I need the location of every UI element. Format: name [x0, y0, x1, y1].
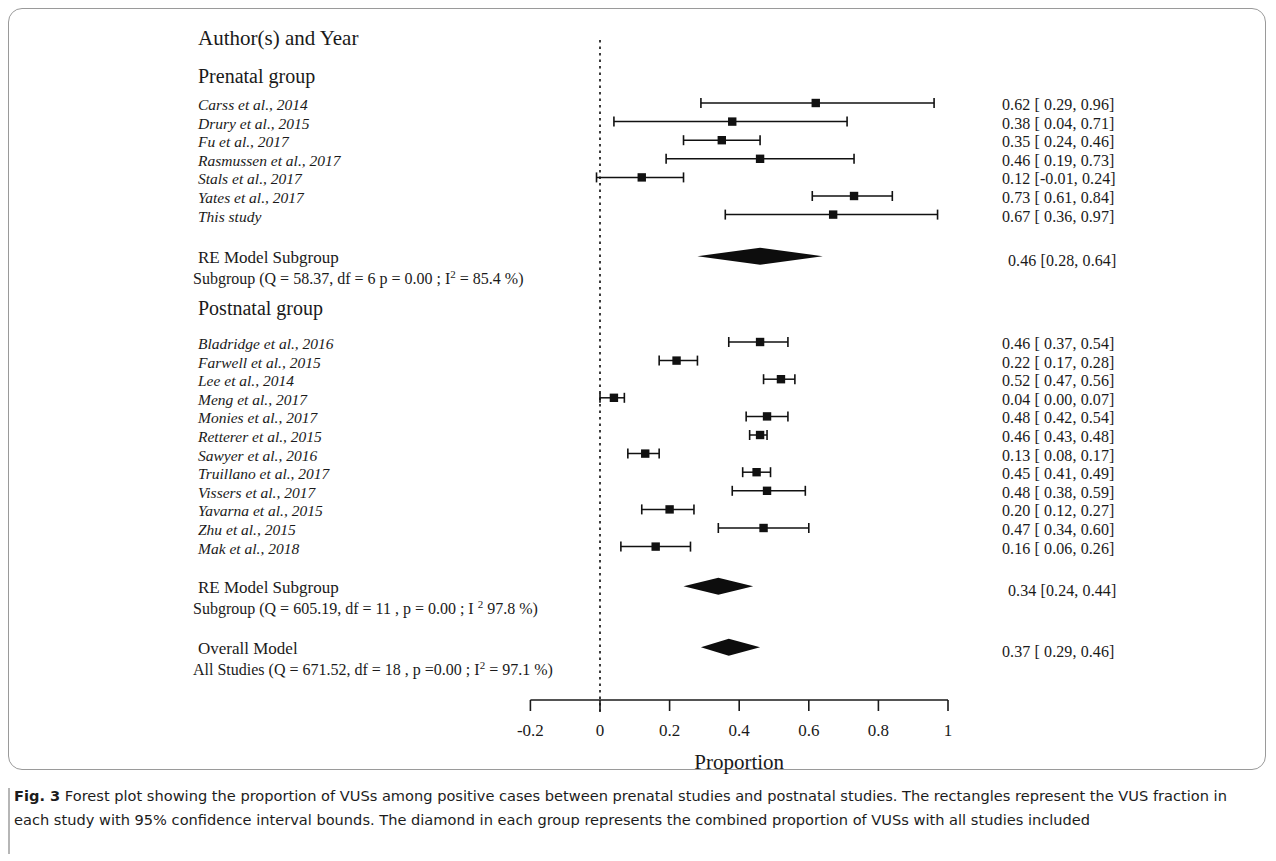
- study-value: 0.73 [ 0.61, 0.84]: [1002, 190, 1114, 206]
- study-value: 0.35 [ 0.24, 0.46]: [1002, 134, 1114, 150]
- effect-marker: [850, 192, 858, 200]
- study-label: Drury et al., 2015: [198, 116, 310, 132]
- forest-row-mak-et-al-2018: [621, 542, 691, 552]
- forest-row-meng-et-al-2017: [600, 393, 624, 403]
- study-value: 0.12 [-0.01, 0.24]: [1002, 171, 1116, 187]
- figure-root: Author(s) and YearPrenatal groupCarss et…: [0, 0, 1276, 861]
- forest-row-this-study: [725, 210, 937, 220]
- forest-row-monies-et-al-2017: [746, 411, 788, 421]
- study-label: Farwell et al., 2015: [198, 355, 321, 371]
- effect-marker: [641, 449, 649, 457]
- caption-text: Forest plot showing the proportion of VU…: [14, 787, 1227, 828]
- study-label: Meng et al., 2017: [198, 392, 307, 408]
- study-label: Stals et al., 2017: [198, 171, 302, 187]
- effect-marker: [610, 394, 618, 402]
- study-label: Lee et al., 2014: [198, 373, 294, 389]
- forest-row-farwell-et-al-2015: [659, 356, 697, 366]
- study-value: 0.62 [ 0.29, 0.96]: [1002, 97, 1114, 113]
- forest-row-yates-et-al-2017: [812, 191, 892, 201]
- study-label: Sawyer et al., 2016: [198, 448, 317, 464]
- subgroup-stats-prenatal: Subgroup (Q = 58.37, df = 6 p = 0.00 ; I…: [193, 271, 523, 287]
- forest-row-fu-et-al-2017: [684, 135, 761, 145]
- effect-marker: [672, 356, 680, 364]
- subgroup-stats-postnatal: Subgroup (Q = 605.19, df = 11 , p = 0.00…: [193, 601, 538, 617]
- study-value: 0.48 [ 0.38, 0.59]: [1002, 485, 1114, 501]
- study-label: Rasmussen et al., 2017: [198, 153, 341, 169]
- study-value: 0.46 [ 0.37, 0.54]: [1002, 336, 1114, 352]
- study-label: Retterer et al., 2015: [198, 429, 322, 445]
- study-value: 0.46 [ 0.19, 0.73]: [1002, 153, 1114, 169]
- group-header-postnatal: Postnatal group: [198, 298, 323, 318]
- subgroup-title-prenatal: RE Model Subgroup: [198, 249, 339, 266]
- overall-title: Overall Model: [198, 640, 298, 657]
- x-axis-tick-label: -0.2: [517, 722, 544, 739]
- effect-marker: [829, 210, 837, 218]
- forest-row-retterer-et-al-2015: [750, 430, 767, 440]
- x-axis-tick-label: 0.8: [868, 722, 889, 739]
- study-label: Yates et al., 2017: [198, 190, 304, 206]
- subgroup-diamond-postnatal: [684, 578, 754, 595]
- study-value: 0.48 [ 0.42, 0.54]: [1002, 410, 1114, 426]
- forest-row-stals-et-al-2017: [597, 172, 684, 182]
- study-value: 0.47 [ 0.34, 0.60]: [1002, 522, 1114, 538]
- study-value: 0.20 [ 0.12, 0.27]: [1002, 503, 1114, 519]
- forest-row-vissers-et-al-2017: [732, 486, 805, 496]
- x-axis-tick-label: 0.6: [798, 722, 819, 739]
- effect-marker: [812, 99, 820, 107]
- overall-value: 0.37 [ 0.29, 0.46]: [1002, 644, 1114, 660]
- effect-marker: [777, 375, 785, 383]
- effect-marker: [763, 487, 771, 495]
- study-value: 0.16 [ 0.06, 0.26]: [1002, 541, 1114, 557]
- effect-marker: [638, 173, 646, 181]
- x-axis-tick-label: 0.4: [729, 722, 750, 739]
- forest-row-rasmussen-et-al-2017: [666, 154, 854, 164]
- forest-row-zhu-et-al-2015: [718, 523, 808, 533]
- figure-label: Fig. 3: [14, 787, 60, 804]
- study-label: Truillano et al., 2017: [198, 466, 329, 482]
- study-label: Fu et al., 2017: [198, 134, 289, 150]
- forest-row-drury-et-al-2015: [614, 117, 847, 127]
- x-axis-tick-label: 1: [944, 722, 953, 739]
- study-label: Monies et al., 2017: [198, 410, 317, 426]
- x-axis-tick-label: 0.2: [659, 722, 680, 739]
- forest-row-yavarna-et-al-2015: [642, 504, 694, 514]
- study-value: 0.46 [ 0.43, 0.48]: [1002, 429, 1114, 445]
- study-label: Yavarna et al., 2015: [198, 503, 323, 519]
- forest-row-lee-et-al-2014: [764, 374, 795, 384]
- study-label: This study: [198, 209, 261, 225]
- effect-marker: [756, 431, 764, 439]
- subgroup-diamond-prenatal: [697, 248, 822, 265]
- overall-stats-superscript: 2: [480, 659, 486, 671]
- study-label: Vissers et al., 2017: [198, 485, 315, 501]
- study-value: 0.45 [ 0.41, 0.49]: [1002, 466, 1114, 482]
- forest-row-carss-et-al-2014: [701, 98, 934, 108]
- subgroup-value-prenatal: 0.46 [0.28, 0.64]: [1008, 253, 1116, 269]
- effect-marker: [763, 412, 771, 420]
- overall-diamond: [701, 639, 760, 656]
- effect-marker: [756, 155, 764, 163]
- forest-row-truillano-et-al-2017: [743, 467, 771, 477]
- group-header-prenatal: Prenatal group: [198, 66, 315, 86]
- caption-rule: [8, 788, 10, 854]
- subgroup-stats-postnatal-superscript: 2: [478, 598, 484, 610]
- study-value: 0.04 [ 0.00, 0.07]: [1002, 392, 1114, 408]
- study-label: Zhu et al., 2015: [198, 522, 296, 538]
- subgroup-stats-prenatal-superscript: 2: [450, 268, 456, 280]
- forest-row-sawyer-et-al-2016: [628, 449, 659, 459]
- x-axis-tick-label: 0: [596, 722, 605, 739]
- study-label: Mak et al., 2018: [198, 541, 299, 557]
- study-value: 0.13 [ 0.08, 0.17]: [1002, 448, 1114, 464]
- x-axis-title: Proportion: [694, 752, 784, 773]
- effect-marker: [759, 524, 767, 532]
- effect-marker: [756, 338, 764, 346]
- subgroup-title-postnatal: RE Model Subgroup: [198, 579, 339, 596]
- effect-marker: [665, 505, 673, 513]
- figure-caption: Fig. 3 Forest plot showing the proportio…: [14, 784, 1262, 831]
- effect-marker: [752, 468, 760, 476]
- study-label: Carss et al., 2014: [198, 97, 308, 113]
- forest-row-bladridge-et-al-2016: [729, 337, 788, 347]
- study-value: 0.22 [ 0.17, 0.28]: [1002, 355, 1114, 371]
- study-value: 0.52 [ 0.47, 0.56]: [1002, 373, 1114, 389]
- effect-marker: [728, 117, 736, 125]
- subgroup-value-postnatal: 0.34 [0.24, 0.44]: [1008, 583, 1116, 599]
